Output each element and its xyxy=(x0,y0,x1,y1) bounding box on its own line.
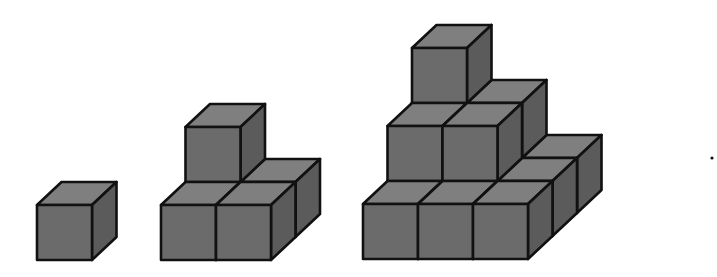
cube-front-face xyxy=(388,126,443,181)
cube-front-face xyxy=(412,48,467,103)
cube-front-face xyxy=(418,204,473,259)
cube-front-face xyxy=(443,126,498,181)
cube-pyramid-diagram xyxy=(0,0,717,277)
cube xyxy=(412,25,492,103)
cube-front-face xyxy=(473,204,528,259)
cube xyxy=(473,181,553,259)
cube-front-face xyxy=(37,205,92,260)
cube xyxy=(37,182,117,260)
cube xyxy=(443,103,523,181)
cube-stack-figure-3 xyxy=(363,25,602,259)
cube xyxy=(186,104,266,182)
cube-front-face xyxy=(363,204,418,259)
cube-front-face xyxy=(186,127,241,182)
continuation-dot xyxy=(710,156,713,159)
cube-front-face xyxy=(161,205,216,260)
cube-stack-figure-1 xyxy=(37,182,117,260)
cube-stack-figure-2 xyxy=(161,104,320,260)
cube xyxy=(216,182,296,260)
cube-front-face xyxy=(216,205,271,260)
